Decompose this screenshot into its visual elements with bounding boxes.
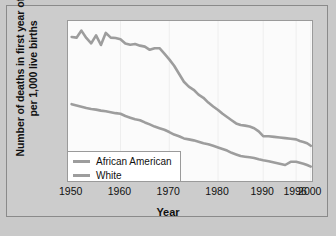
legend-swatch-african-american: [73, 160, 90, 163]
chart-figure: Number of deaths in first year of life p…: [0, 0, 336, 236]
x-tick-label: 1970: [157, 185, 180, 197]
legend-item: African American: [73, 155, 180, 167]
x-tick-label: 1990: [251, 185, 274, 197]
legend-swatch-white: [73, 174, 90, 177]
x-tick-label: 1950: [59, 185, 82, 197]
x-tick-label: 2000: [298, 185, 321, 197]
chart-legend: African American White: [67, 151, 181, 182]
x-tick-label: 1960: [108, 185, 131, 197]
series-line: [72, 31, 311, 146]
y-axis-title: Number of deaths in first year of life p…: [14, 0, 39, 157]
x-tick-label: 1980: [205, 185, 228, 197]
x-axis-title: Year: [0, 206, 336, 218]
legend-label-white: White: [96, 170, 122, 181]
legend-label-african-american: African American: [96, 156, 172, 167]
legend-item: White: [73, 169, 180, 181]
